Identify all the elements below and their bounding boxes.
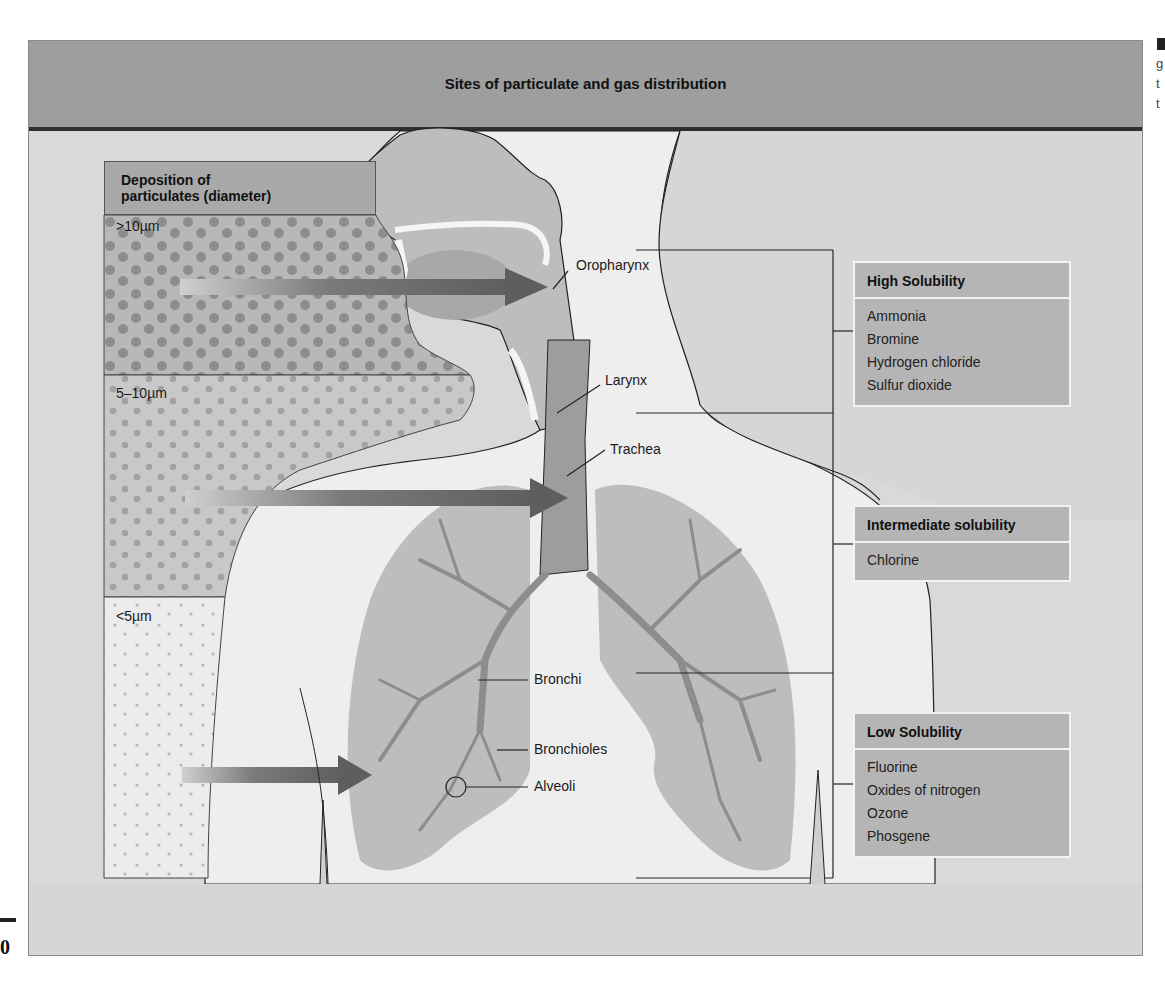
label-oropharynx: Oropharynx [576, 257, 649, 273]
label-larynx: Larynx [605, 372, 647, 388]
gas-item: Oxides of nitrogen [867, 779, 1057, 802]
low-solubility-title: Low Solubility [855, 714, 1069, 750]
margin-bold-mark [1157, 38, 1165, 50]
margin-rule [0, 918, 16, 922]
intermediate-solubility-title: Intermediate solubility [855, 507, 1069, 543]
gas-item: Fluorine [867, 756, 1057, 779]
gas-item: Hydrogen chloride [867, 351, 1057, 374]
band-label-lt5: <5µm [116, 608, 152, 624]
gas-item: Ammonia [867, 305, 1057, 328]
deposition-heading-line2: particulates (diameter) [121, 188, 375, 204]
high-solubility-box: High Solubility Ammonia Bromine Hydrogen… [853, 261, 1071, 407]
label-bronchioles: Bronchioles [534, 741, 607, 757]
low-solubility-box: Low Solubility Fluorine Oxides of nitrog… [853, 712, 1071, 858]
gas-item: Bromine [867, 328, 1057, 351]
label-bronchi: Bronchi [534, 671, 581, 687]
intermediate-solubility-box: Intermediate solubility Chlorine [853, 505, 1071, 582]
gas-item: Phosgene [867, 825, 1057, 848]
trachea-tube [540, 340, 590, 575]
gas-item: Ozone [867, 802, 1057, 825]
band-lt5 [104, 597, 225, 878]
band-label-gt10: >10µm [116, 218, 159, 234]
label-alveoli: Alveoli [534, 778, 575, 794]
deposition-heading: Deposition of particulates (diameter) [104, 161, 376, 215]
deposition-heading-line1: Deposition of [121, 172, 375, 188]
page-number-fragment: 0 [0, 936, 10, 959]
margin-fragment: g [1156, 56, 1163, 71]
label-trachea: Trachea [610, 441, 661, 457]
margin-fragment: t [1156, 76, 1160, 91]
gas-item: Sulfur dioxide [867, 374, 1057, 397]
margin-fragment: t [1156, 96, 1160, 111]
gas-item: Chlorine [867, 549, 1057, 572]
band-label-5-10: 5–10µm [116, 385, 167, 401]
high-solubility-title: High Solubility [855, 263, 1069, 299]
